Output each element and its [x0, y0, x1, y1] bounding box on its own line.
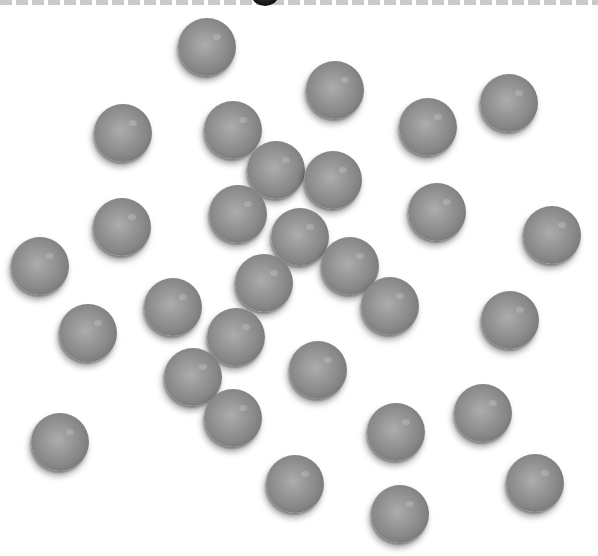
ball [289, 341, 347, 399]
cutoff-dark-shape [252, 0, 278, 6]
ball [481, 291, 539, 349]
ball [144, 278, 202, 336]
dashed-top-border [0, 0, 598, 5]
ball [306, 61, 364, 119]
ball [523, 206, 581, 264]
ball [454, 384, 512, 442]
ball [209, 185, 267, 243]
ball [235, 254, 293, 312]
ball [207, 308, 265, 366]
ball [59, 304, 117, 362]
ball-scene [0, 0, 598, 556]
ball [93, 198, 151, 256]
ball [367, 403, 425, 461]
ball [178, 18, 236, 76]
ball [304, 151, 362, 209]
ball [204, 389, 262, 447]
ball [271, 208, 329, 266]
ball [399, 98, 457, 156]
ball [361, 277, 419, 335]
ball [11, 237, 69, 295]
ball [94, 104, 152, 162]
ball [480, 74, 538, 132]
ball [31, 413, 89, 471]
ball [371, 485, 429, 543]
ball [266, 455, 324, 513]
ball [408, 183, 466, 241]
ball [506, 454, 564, 512]
